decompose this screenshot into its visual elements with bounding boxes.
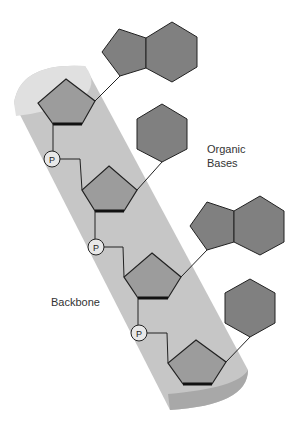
purine-hexagon-ring <box>234 196 284 255</box>
phosphate-3: P <box>131 325 147 341</box>
phosphate-label: P <box>49 155 55 165</box>
phosphate-2: P <box>88 239 104 255</box>
phosphate-1: P <box>44 151 60 167</box>
pyrimidine-hexagon-ring <box>137 104 187 162</box>
dna-diagram: P P P Organic Bases B <box>0 0 303 426</box>
glycosidic-bond <box>95 76 120 101</box>
phosphate-label: P <box>136 329 142 339</box>
purine-hexagon-ring <box>146 22 197 82</box>
pyrimidine-hexagon-ring <box>225 279 275 337</box>
organic-bases-label-line2: Bases <box>207 157 238 169</box>
phosphate-label: P <box>93 243 99 253</box>
organic-bases-label-line1: Organic <box>207 143 246 155</box>
purine-pentagon-ring <box>102 29 146 76</box>
purine-pentagon-ring <box>190 202 234 250</box>
backbone-label: Backbone <box>51 296 100 308</box>
